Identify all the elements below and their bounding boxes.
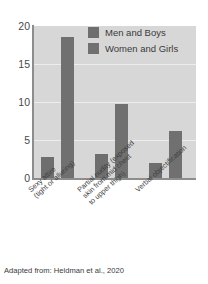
y-axis-line [32,25,34,179]
y-tick-5: 5 [0,135,30,146]
legend-item-women-and-girls: Women and Girls [88,42,194,55]
y-tick-20: 20 [0,21,30,32]
legend-swatch-men-and-boys [88,27,99,38]
source-caption: Adapted from: Heldman et al., 2020 [4,266,124,275]
legend-label-women-and-girls: Women and Girls [105,44,178,54]
bar-chart-figure: 20 15 10 5 0 Men and Boys [0,0,208,284]
legend-swatch-women-and-girls [88,43,99,54]
legend: Men and Boys Women and Girls [88,26,194,58]
y-tick-0: 0 [0,173,30,184]
legend-label-men-and-boys: Men and Boys [105,28,166,38]
y-tick-15: 15 [0,59,30,70]
y-axis-tick-labels: 20 15 10 5 0 [0,0,30,284]
y-tick-10: 10 [0,97,30,108]
legend-item-men-and-boys: Men and Boys [88,26,194,39]
